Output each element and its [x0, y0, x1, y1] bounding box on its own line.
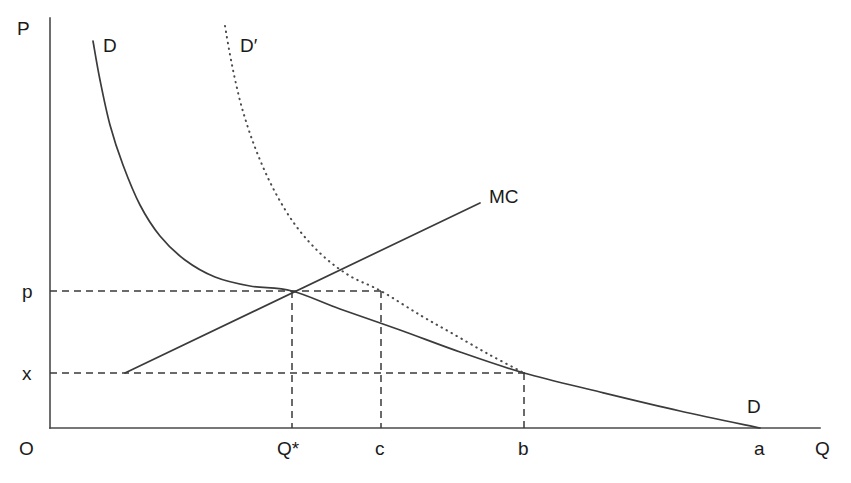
demand-curve-d: [93, 41, 760, 428]
y-tick-label-p: p: [22, 282, 33, 301]
curve-label-mc: MC: [489, 187, 519, 206]
diagram-canvas: [0, 0, 851, 483]
marginal-cost-line: [125, 203, 480, 373]
x-tick-label-b: b: [518, 439, 529, 458]
x-tick-label-a: a: [754, 439, 765, 458]
y-axis-label: P: [17, 19, 30, 38]
curve-label-d-top: D: [103, 36, 117, 55]
y-tick-label-x: x: [22, 364, 32, 383]
x-axis-label: Q: [815, 439, 830, 458]
economics-diagram-figure: P Q O p x Q* c b a D D′ MC D: [0, 0, 851, 483]
x-tick-label-c: c: [375, 439, 385, 458]
origin-label: O: [19, 439, 34, 458]
x-tick-label-qstar: Q*: [277, 439, 299, 458]
curve-label-d-end: D: [747, 397, 761, 416]
curve-label-d-prime: D′: [240, 36, 257, 55]
